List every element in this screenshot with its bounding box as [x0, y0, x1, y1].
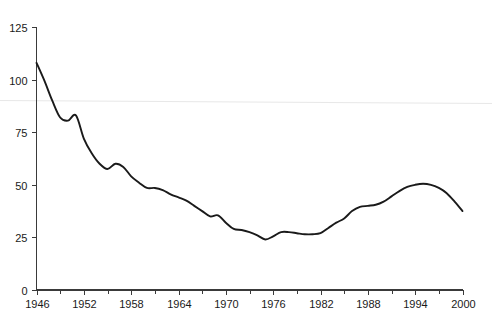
x-tick-label: 2000 — [451, 298, 475, 310]
y-tick-label: 125 — [9, 22, 27, 34]
y-tick-label: 0 — [21, 285, 27, 297]
y-tick-label: 75 — [15, 127, 27, 139]
x-tick-label: 1952 — [72, 298, 96, 310]
x-axis-tick-labels: 1946195219581964197019761982198819942000 — [25, 298, 475, 310]
x-tick-label: 1946 — [25, 298, 49, 310]
y-axis-tick-labels: 0255075100125 — [9, 22, 27, 297]
y-tick-label: 100 — [9, 75, 27, 87]
x-tick-label: 1970 — [214, 298, 238, 310]
y-axis-ticks — [32, 28, 37, 291]
data-series-line — [37, 63, 463, 240]
y-tick-label: 50 — [15, 180, 27, 192]
y-tick-label: 25 — [15, 232, 27, 244]
x-tick-label: 1958 — [119, 298, 143, 310]
x-tick-label: 1988 — [356, 298, 380, 310]
x-tick-label: 1994 — [403, 298, 427, 310]
x-tick-label: 1976 — [261, 298, 285, 310]
chart-container: 0255075100125 19461952195819641970197619… — [0, 0, 492, 326]
x-axis-ticks — [38, 290, 464, 295]
x-tick-label: 1964 — [167, 298, 191, 310]
background-rule — [0, 101, 492, 104]
x-tick-label: 1982 — [309, 298, 333, 310]
line-chart: 0255075100125 19461952195819641970197619… — [0, 0, 492, 326]
